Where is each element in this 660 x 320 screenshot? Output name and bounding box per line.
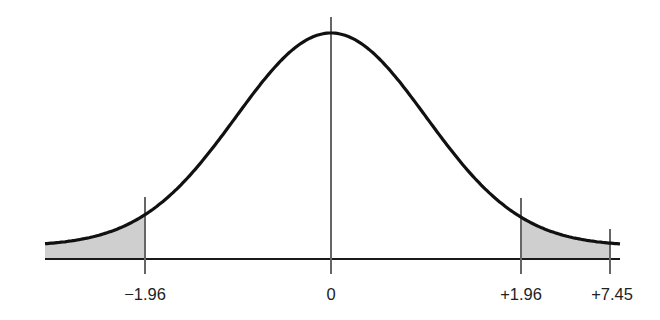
tick-label-pos196: +1.96	[500, 285, 542, 303]
tick-label-zero: 0	[326, 285, 335, 303]
tick-label-neg196: −1.96	[124, 285, 166, 303]
bell-curve	[45, 33, 620, 244]
tick-label-pos745: +7.45	[591, 285, 633, 303]
diagram-canvas: −1.96 0 +1.96 +7.45	[0, 0, 660, 320]
normal-distribution-diagram: −1.96 0 +1.96 +7.45	[0, 0, 660, 320]
